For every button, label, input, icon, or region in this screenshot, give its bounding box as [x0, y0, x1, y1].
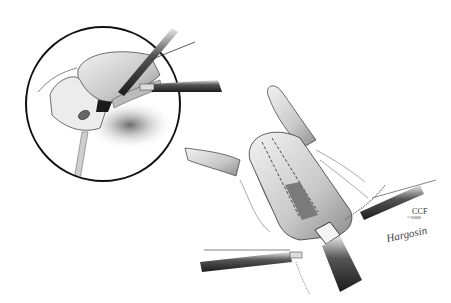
grasper-left — [200, 252, 292, 272]
stapler-shaft — [322, 236, 362, 292]
signature-date: ©2000 — [407, 215, 421, 220]
surgical-illustration: CCF ©2000 Hargosin — [0, 0, 451, 303]
main-view — [185, 86, 436, 295]
illustration-canvas — [0, 0, 451, 303]
inset-grasper-2 — [150, 80, 222, 92]
